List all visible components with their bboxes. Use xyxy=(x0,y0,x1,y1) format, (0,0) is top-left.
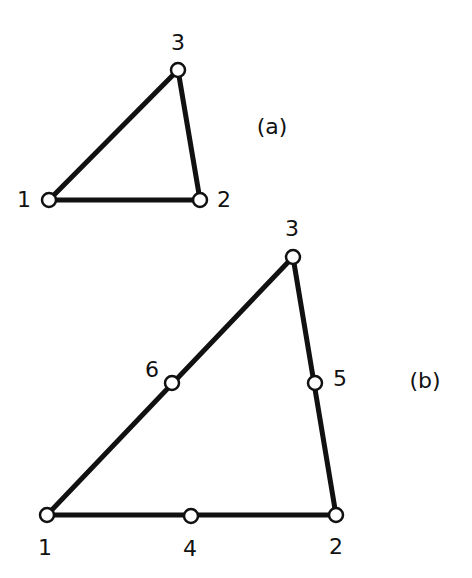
node-label-b-5: 5 xyxy=(333,366,347,391)
node-b-2 xyxy=(329,508,343,522)
node-label-b-1: 1 xyxy=(38,535,52,560)
node-b-4 xyxy=(184,509,198,523)
node-label-a-1: 1 xyxy=(17,187,31,212)
node-a-3 xyxy=(171,63,185,77)
edge-a-2-3 xyxy=(178,70,200,200)
node-b-5 xyxy=(308,376,322,390)
triangle-b: 1 2 3 4 5 6 (b) xyxy=(38,216,441,561)
node-label-b-6: 6 xyxy=(145,357,159,382)
edge-a-3-1 xyxy=(49,70,178,200)
node-label-b-3: 3 xyxy=(285,216,299,241)
triangle-a: 1 2 3 (a) xyxy=(17,30,287,212)
diagram-canvas: 1 2 3 (a) 1 2 3 4 5 6 (b) xyxy=(0,0,472,578)
figure-caption-a: (a) xyxy=(257,114,288,139)
node-label-b-2: 2 xyxy=(329,534,343,559)
node-label-a-2: 2 xyxy=(217,187,231,212)
node-b-3 xyxy=(286,250,300,264)
figure-caption-b: (b) xyxy=(409,368,440,393)
node-a-1 xyxy=(42,193,56,207)
node-b-6 xyxy=(165,376,179,390)
node-label-b-4: 4 xyxy=(183,536,197,561)
node-a-2 xyxy=(193,193,207,207)
node-label-a-3: 3 xyxy=(171,30,185,55)
node-b-1 xyxy=(40,508,54,522)
